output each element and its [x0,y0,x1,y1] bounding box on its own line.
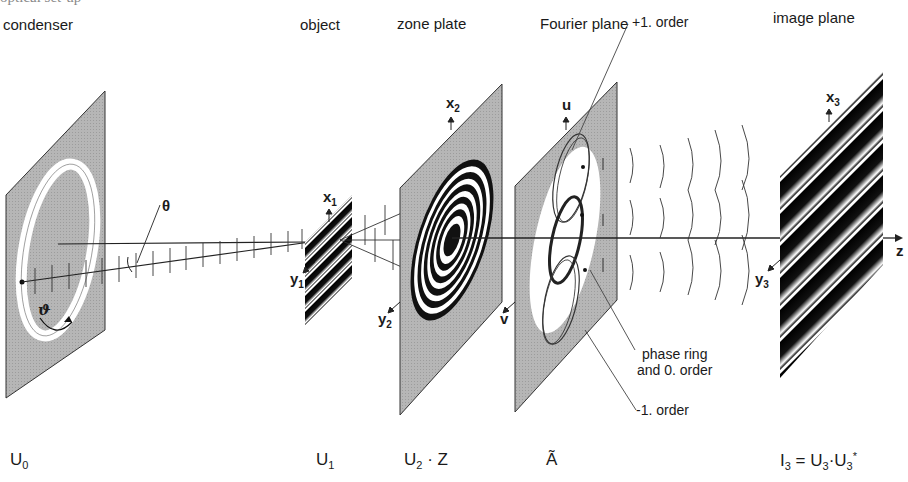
axis-u: u [562,96,571,113]
condenser-plane [6,91,107,398]
axis-v: v [500,310,508,327]
fourier-plane [515,82,617,412]
title-object: object [300,16,340,33]
object-grating [300,145,360,350]
title-condenser: condenser [3,16,73,33]
annotation-phase-ring: phase ring and 0. order [637,346,713,378]
zone-plate [394,84,511,415]
wavefront-arcs [630,125,749,305]
title-fourier-plane: Fourier plane [540,15,628,32]
label-i3: I3 = U3·U3* [780,450,857,472]
label-u2-z: U2 · Z [404,450,448,471]
axis-y1: y1 [290,270,304,290]
axis-y3: y3 [755,270,769,290]
label-a-tilde: Ã [546,450,557,470]
label-u0: U0 [10,450,28,471]
axis-x2: x2 [446,94,460,114]
optical-setup-diagram [0,0,908,482]
axis-z: z [896,242,904,259]
label-u1: U1 [316,450,334,471]
top-text-fragment: optical set-up [0,0,81,6]
axis-y2: y2 [378,310,392,330]
angle-vartheta: ϑ [38,301,51,319]
title-image-plane: image plane [773,9,855,26]
axis-x3: x3 [826,88,840,108]
angle-theta: θ [162,197,170,214]
annotation-plus-first-order: +1. order [632,14,688,30]
annotation-minus-first-order: -1. order [636,402,689,418]
axis-x1: x1 [323,188,337,208]
title-zone-plate: zone plate [397,15,466,32]
